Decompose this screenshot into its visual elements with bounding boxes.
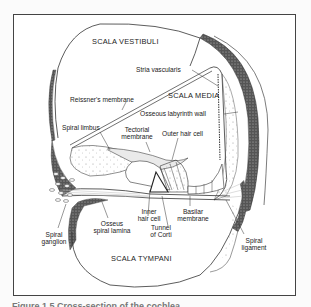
label-spiral-limbus: Spiral limbus xyxy=(62,124,100,131)
label-tunnel-of-corti: Tunnel of Corti xyxy=(146,224,176,238)
label-line-1: Spiral xyxy=(38,231,70,238)
label-stria-vascularis: Stria vascularis xyxy=(136,66,181,73)
label-basilar-membrane: Basilar membrane xyxy=(174,208,212,222)
label-reissners-membrane: Reissner's membrane xyxy=(70,96,134,103)
label-line-1: Inner xyxy=(134,208,164,215)
figure-caption: Figure 1.5 Cross-section of the cochlea xyxy=(12,301,180,307)
label-line-1: Tectorial xyxy=(117,126,157,133)
label-line-2: of Corti xyxy=(146,231,176,238)
label-scala-vestibuli: SCALA VESTIBULI xyxy=(92,38,159,45)
label-tectorial-membrane: Tectorial membrane xyxy=(117,126,157,140)
label-spiral-ligament: Spiral ligament xyxy=(238,237,270,251)
label-line-1: Basilar xyxy=(174,208,212,215)
label-line-2: membrane xyxy=(117,133,157,140)
label-spiral-ganglion: Spiral ganglion xyxy=(38,231,70,245)
label-osseous-labyrinth-wall: Osseous labyrinth wall xyxy=(140,110,206,117)
label-line-2: ganglion xyxy=(38,238,70,245)
label-inner-hair-cell: Inner hair cell xyxy=(134,208,164,222)
label-outer-hair-cell: Outer hair cell xyxy=(162,130,203,137)
label-scala-tympani: SCALA TYMPANI xyxy=(111,255,172,262)
label-line-1: Spiral xyxy=(238,237,270,244)
label-line-2: hair cell xyxy=(134,215,164,222)
label-line-1: Osseus xyxy=(90,220,134,227)
label-line-2: spiral lamina xyxy=(90,227,134,234)
label-osseous-spiral-lamina: Osseus spiral lamina xyxy=(90,220,134,234)
label-scala-media: SCALA MEDIA xyxy=(168,92,220,99)
label-line-2: ligament xyxy=(238,244,270,251)
label-line-1: Tunnel xyxy=(146,224,176,231)
label-line-2: membrane xyxy=(174,215,212,222)
